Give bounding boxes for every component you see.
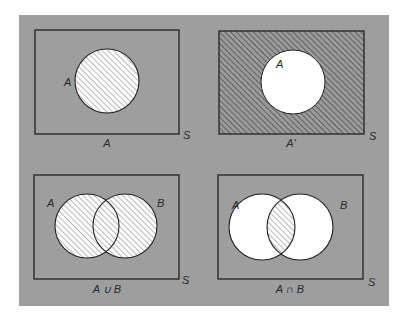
universe-label: S: [368, 276, 376, 288]
set-a-label: A: [275, 58, 283, 70]
set-b-label: B: [157, 197, 164, 209]
panel-caption: A: [102, 137, 110, 149]
universe-label: S: [369, 130, 377, 142]
panel-caption: A ∩ B: [275, 283, 304, 295]
set-a-circle: [261, 50, 325, 114]
panel-caption: A′: [285, 137, 296, 149]
set-a-circle: [75, 49, 139, 113]
set-b-label: B: [340, 199, 347, 211]
universe-label: S: [183, 129, 191, 141]
set-a-label: A: [63, 76, 71, 88]
set-a-label: A: [46, 197, 54, 209]
panel-complement-a: A S A′: [219, 31, 377, 149]
venn-diagram-figure: A S A A S A′ A B S A ∪ B A B S A ∩ B: [0, 0, 409, 322]
panel-caption: A ∪ B: [92, 283, 121, 295]
set-a-label: A: [231, 199, 239, 211]
universe-label: S: [182, 274, 190, 286]
